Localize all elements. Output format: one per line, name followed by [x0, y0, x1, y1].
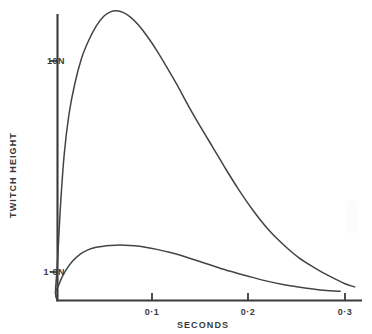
figure-container: 10N 1·0N 0·1 0·2 0·3 SECONDS TWITCH HEIG…: [0, 0, 372, 334]
y-axis-tick-label-1n: 1·0N: [43, 268, 65, 277]
x-axis-title: SECONDS: [177, 321, 229, 330]
curve-lower-twitch: [55, 245, 340, 300]
y-axis-ticks: [50, 61, 58, 272]
x-axis-tick-label-0-2: 0·2: [241, 308, 256, 317]
y-axis-tick-label-10n: 10N: [47, 57, 65, 66]
axis-lines: [57, 15, 361, 301]
curve-upper-twitch: [55, 11, 354, 301]
x-axis-tick-label-0-1: 0·1: [145, 308, 160, 317]
y-axis-title: TWITCH HEIGHT: [9, 132, 18, 218]
x-axis-ticks: [152, 293, 345, 301]
chart-plot-area: [0, 0, 372, 334]
x-axis-tick-label-0-3: 0·3: [338, 308, 353, 317]
